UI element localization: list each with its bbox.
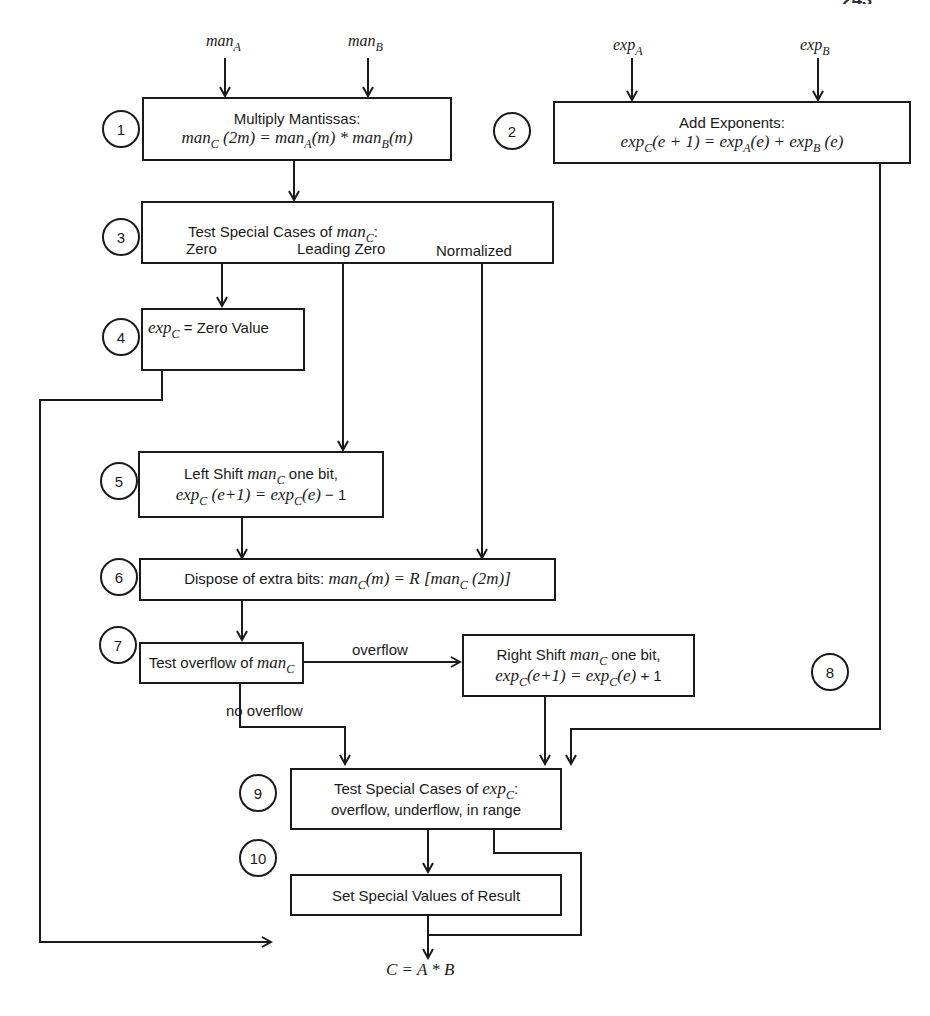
step1-multiply-mantissas: Multiply Mantissas: manC (2m) = manA(m) … [142,97,452,161]
step-number-4: 4 [102,318,140,356]
step2-formula: expC(e + 1) = expA(e) + expB (e) [621,132,844,153]
step9-title: Test Special Cases of expC: [334,779,518,800]
edge-label-no-overflow: no overflow [226,702,303,719]
step1-formula: manC (2m) = manA(m) * manB(m) [181,128,412,149]
case-zero: Zero [186,240,217,257]
step-number-9: 9 [239,774,277,812]
step-number-8: 8 [811,653,849,691]
step-number-5: 5 [100,462,138,500]
step1-title: Multiply Mantissas: [234,109,361,128]
step2-add-exponents: Add Exponents: expC(e + 1) = expA(e) + e… [553,101,911,164]
step6-formula: Dispose of extra bits: manC(m) = R [manC… [184,569,511,590]
step7-test-overflow: Test overflow of manC [139,642,304,684]
step-number-1: 1 [102,110,140,148]
step-number-6: 6 [100,558,138,596]
input-exp-b: expB [800,36,830,54]
case-normalized: Normalized [436,242,512,259]
step6-dispose-extra-bits: Dispose of extra bits: manC(m) = R [manC… [139,558,556,601]
output-formula: C = A * B [386,960,454,980]
step5-left-shift: Left Shift manC one bit, expC (e+1) = ex… [138,451,384,518]
step-number-3: 3 [102,218,140,256]
input-man-a: manA [206,32,241,50]
step5-title: Left Shift manC one bit, [184,464,338,485]
step4-exp-zero-value: expC = Zero Value [141,308,305,371]
step10-title: Set Special Values of Result [332,886,520,905]
step9-subtitle: overflow, underflow, in range [331,800,521,819]
edge-label-overflow: overflow [352,641,408,658]
step10-set-special-values: Set Special Values of Result [290,874,562,916]
input-exp-a: expA [613,36,643,54]
step9-test-exponent-cases: Test Special Cases of expC: overflow, un… [290,768,562,830]
step8-formula: expC(e+1) = expC(e) + 1 [495,666,661,687]
case-leading-zero: Leading Zero [297,240,385,257]
input-man-b: manB [348,32,383,50]
step-number-2: 2 [493,112,531,150]
step2-title: Add Exponents: [679,113,785,132]
step-number-10: 10 [239,839,277,877]
step8-title: Right Shift manC one bit, [496,645,660,666]
step4-formula: expC = Zero Value [148,318,269,339]
step-number-7: 7 [99,626,137,664]
step7-title: Test overflow of manC [149,653,295,674]
step8-right-shift: Right Shift manC one bit, expC(e+1) = ex… [462,634,695,697]
arrow-nooverflow-to-step9 [240,683,345,764]
step5-formula: expC (e+1) = expC(e) − 1 [176,485,347,506]
